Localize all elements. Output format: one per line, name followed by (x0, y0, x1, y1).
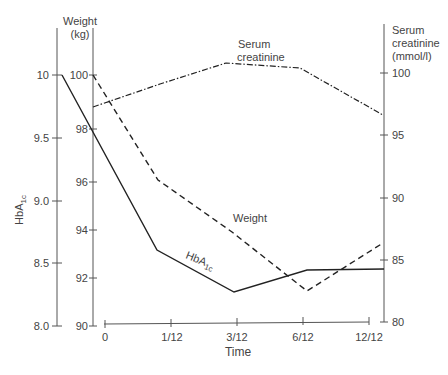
svg-text:100: 100 (70, 69, 88, 81)
svg-text:90: 90 (392, 192, 404, 204)
creatinine-line (93, 63, 383, 115)
chart: 10 9.5 9.0 8.5 8.0 100 98 96 94 92 90 10… (0, 0, 448, 375)
svg-text:creatinine: creatinine (237, 51, 285, 63)
hba1c-line (62, 75, 384, 292)
weight-series-label: Weight (233, 212, 267, 224)
svg-text:92: 92 (76, 272, 88, 284)
weight-axis-title: Weight (kg) (63, 15, 97, 40)
hba1c-series-label: HbA1c (183, 249, 216, 274)
svg-text:(kg): (kg) (71, 28, 90, 40)
svg-text:10: 10 (37, 69, 49, 81)
time-tick-labels: 0 1/12 3/12 6/12 12/12 (102, 331, 383, 343)
svg-text:8.0: 8.0 (34, 320, 49, 332)
svg-text:0: 0 (102, 331, 108, 343)
svg-text:9.0: 9.0 (34, 195, 49, 207)
svg-text:Serum: Serum (392, 24, 424, 36)
creatinine-series-label: Serum creatinine (237, 38, 285, 63)
svg-text:Serum: Serum (238, 38, 270, 50)
svg-text:(mmol/l): (mmol/l) (392, 50, 432, 62)
svg-text:85: 85 (392, 254, 404, 266)
creatinine-tick-labels: 100 95 90 85 80 (392, 67, 410, 328)
svg-text:90: 90 (76, 320, 88, 332)
svg-text:8.5: 8.5 (34, 257, 49, 269)
svg-text:creatinine: creatinine (392, 37, 440, 49)
weight-tick-labels: 100 98 96 94 92 90 (70, 69, 88, 332)
hba1c-axis-title: HbA1c (13, 195, 28, 225)
svg-text:95: 95 (392, 129, 404, 141)
svg-text:1/12: 1/12 (161, 331, 182, 343)
svg-text:HbA1c: HbA1c (183, 249, 216, 274)
svg-text:3/12: 3/12 (226, 331, 247, 343)
svg-text:9.5: 9.5 (34, 132, 49, 144)
x-axis-title: Time (225, 345, 252, 359)
svg-text:80: 80 (392, 316, 404, 328)
svg-text:HbA1c: HbA1c (13, 195, 28, 225)
svg-text:100: 100 (392, 67, 410, 79)
svg-text:6/12: 6/12 (292, 331, 313, 343)
weight-line (93, 75, 383, 291)
svg-text:98: 98 (76, 123, 88, 135)
svg-text:Weight: Weight (63, 15, 97, 27)
svg-text:94: 94 (76, 224, 88, 236)
svg-text:12/12: 12/12 (355, 331, 383, 343)
svg-text:96: 96 (76, 176, 88, 188)
hba1c-tick-labels: 10 9.5 9.0 8.5 8.0 (34, 69, 49, 332)
creatinine-axis-title: Serum creatinine (mmol/l) (392, 24, 440, 62)
